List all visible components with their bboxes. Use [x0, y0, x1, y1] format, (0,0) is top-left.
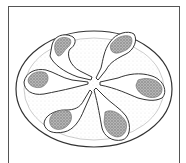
lamb-chops-illustration — [0, 0, 186, 163]
